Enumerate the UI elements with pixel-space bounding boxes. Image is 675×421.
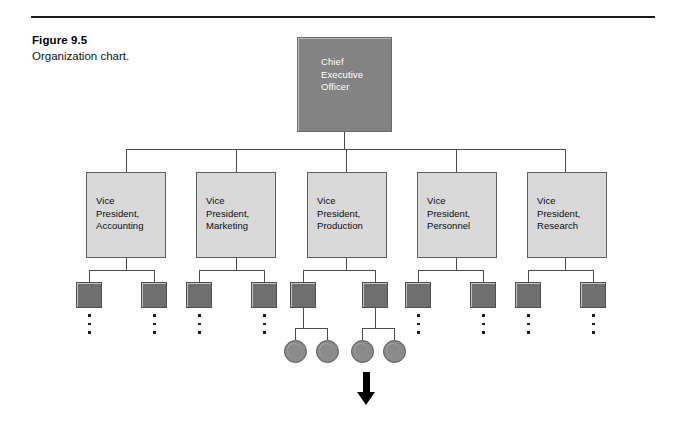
- ellipsis-dot: [592, 314, 595, 317]
- ellipsis-under-unit-1: [88, 314, 91, 340]
- ellipsis-dot: [527, 323, 530, 326]
- ellipsis-dot: [417, 314, 420, 317]
- ellipsis-under-unit-9: [527, 314, 530, 340]
- node-team-4[interactable]: [383, 340, 406, 363]
- organization-chart: Chief Executive Officer Vice President, …: [0, 0, 675, 421]
- connector-drop-team-2: [327, 328, 328, 340]
- ellipsis-under-unit-8: [482, 314, 485, 340]
- connector-unit-bus-production: [303, 270, 375, 271]
- connector-drop-unit-2: [154, 270, 155, 282]
- ellipsis-dot: [482, 331, 485, 334]
- ellipsis-under-unit-2: [153, 314, 156, 340]
- ellipsis-dot: [263, 323, 266, 326]
- node-unit-9[interactable]: [515, 282, 541, 308]
- ellipsis-under-unit-10: [592, 314, 595, 340]
- ellipsis-dot: [198, 331, 201, 334]
- ellipsis-dot: [592, 323, 595, 326]
- ellipsis-dot: [417, 323, 420, 326]
- node-vice-president-accounting[interactable]: Vice President, Accounting: [86, 172, 166, 258]
- connector-team-bus-unit-5: [295, 328, 327, 329]
- connector-drop-unit-5: [303, 270, 304, 282]
- connector-drop-unit-7: [418, 270, 419, 282]
- node-unit-8[interactable]: [470, 282, 496, 308]
- ellipsis-dot: [527, 331, 530, 334]
- connector-drop-unit-3: [199, 270, 200, 282]
- connector-drop-vp-personnel: [456, 149, 457, 172]
- node-label-vp-research: Vice President, Research: [537, 195, 580, 233]
- connector-drop-team-4: [394, 328, 395, 340]
- ellipsis-dot: [88, 323, 91, 326]
- connector-team-bus-unit-6: [362, 328, 394, 329]
- node-label-ceo: Chief Executive Officer: [321, 56, 363, 94]
- ellipsis-dot: [153, 331, 156, 334]
- connector-drop-unit-8: [483, 270, 484, 282]
- node-chief-executive-officer[interactable]: Chief Executive Officer: [297, 37, 392, 132]
- node-label-vp-accounting: Vice President, Accounting: [96, 195, 144, 233]
- node-vice-president-production[interactable]: Vice President, Production: [307, 172, 387, 258]
- connector-drop-vp-production: [346, 149, 347, 172]
- ellipsis-dot: [198, 314, 201, 317]
- connector-stem-unit-5: [303, 308, 304, 328]
- connector-stem-vp-production: [346, 258, 347, 270]
- connector-drop-unit-10: [593, 270, 594, 282]
- ellipsis-dot: [263, 331, 266, 334]
- node-label-vp-production: Vice President, Production: [317, 195, 363, 233]
- node-team-2[interactable]: [316, 340, 339, 363]
- connector-drop-unit-9: [528, 270, 529, 282]
- connector-drop-vp-research: [565, 149, 566, 172]
- arrow-stem: [363, 372, 370, 393]
- figure-page: Figure 9.5 Organization chart. Chief Exe…: [0, 0, 675, 421]
- node-unit-6[interactable]: [362, 282, 388, 308]
- ellipsis-dot: [263, 314, 266, 317]
- ellipsis-dot: [153, 323, 156, 326]
- connector-drop-unit-6: [375, 270, 376, 282]
- connector-unit-bus-personnel: [418, 270, 483, 271]
- node-unit-5[interactable]: [290, 282, 316, 308]
- ellipsis-dot: [592, 331, 595, 334]
- ellipsis-dot: [482, 314, 485, 317]
- ellipsis-dot: [482, 323, 485, 326]
- node-label-vp-personnel: Vice President, Personnel: [427, 195, 470, 233]
- node-team-3[interactable]: [351, 340, 374, 363]
- ellipsis-dot: [417, 331, 420, 334]
- ellipsis-dot: [153, 314, 156, 317]
- connector-drop-vp-accounting: [126, 149, 127, 172]
- connector-drop-team-3: [362, 328, 363, 340]
- node-unit-2[interactable]: [141, 282, 167, 308]
- node-vice-president-research[interactable]: Vice President, Research: [527, 172, 607, 258]
- connector-stem-vp-research: [565, 258, 566, 270]
- arrow-head: [357, 392, 375, 405]
- connector-drop-unit-1: [89, 270, 90, 282]
- node-vice-president-personnel[interactable]: Vice President, Personnel: [417, 172, 497, 258]
- connector-unit-bus-accounting: [89, 270, 154, 271]
- ellipsis-dot: [88, 314, 91, 317]
- ellipsis-dot: [198, 323, 201, 326]
- connector-unit-bus-marketing: [199, 270, 264, 271]
- connector-stem-unit-6: [375, 308, 376, 328]
- connector-stem-vp-marketing: [236, 258, 237, 270]
- ellipsis-under-unit-3: [198, 314, 201, 340]
- node-unit-1[interactable]: [76, 282, 102, 308]
- node-label-vp-marketing: Vice President, Marketing: [206, 195, 249, 233]
- node-unit-4[interactable]: [251, 282, 277, 308]
- connector-stem-vp-personnel: [456, 258, 457, 270]
- ellipsis-under-unit-7: [417, 314, 420, 340]
- ellipsis-dot: [88, 331, 91, 334]
- ellipsis-under-unit-4: [263, 314, 266, 340]
- node-unit-7[interactable]: [405, 282, 431, 308]
- node-vice-president-marketing[interactable]: Vice President, Marketing: [196, 172, 276, 258]
- connector-drop-unit-4: [264, 270, 265, 282]
- connector-stem-vp-accounting: [126, 258, 127, 270]
- node-unit-3[interactable]: [186, 282, 212, 308]
- ellipsis-dot: [527, 314, 530, 317]
- connector-drop-vp-marketing: [236, 149, 237, 172]
- connector-ceo-stem: [344, 132, 345, 149]
- node-unit-10[interactable]: [580, 282, 606, 308]
- connector-drop-team-1: [295, 328, 296, 340]
- connector-unit-bus-research: [528, 270, 593, 271]
- node-team-1[interactable]: [284, 340, 307, 363]
